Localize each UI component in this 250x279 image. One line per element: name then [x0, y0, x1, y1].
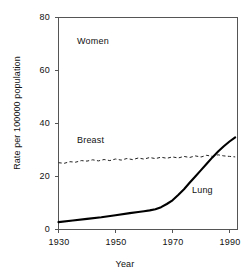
series-line-lung [59, 137, 236, 222]
x-tick-label-1970: 1970 [156, 237, 190, 247]
y-axis-title: Rate per 100000 population [12, 43, 22, 183]
y-tick-label-80: 80 [28, 12, 50, 22]
x-tick-label-1990: 1990 [213, 237, 247, 247]
annotation-lung: Lung [192, 185, 213, 195]
y-tick-label-60: 60 [28, 65, 50, 75]
cancer-rate-chart: 80 60 40 20 0 1930 1950 1970 1990 Rate p… [0, 0, 250, 279]
x-tick-label-1950: 1950 [99, 237, 133, 247]
annotation-women: Women [77, 36, 109, 46]
x-axis-ticks [59, 230, 230, 234]
y-tick-label-0: 0 [28, 224, 50, 234]
annotation-breast: Breast [77, 135, 104, 145]
x-axis-title: Year [0, 259, 250, 269]
y-tick-label-20: 20 [28, 171, 50, 181]
y-tick-label-40: 40 [28, 118, 50, 128]
x-tick-label-1930: 1930 [42, 237, 76, 247]
y-axis-ticks [55, 18, 59, 230]
plot-frame [59, 18, 238, 230]
